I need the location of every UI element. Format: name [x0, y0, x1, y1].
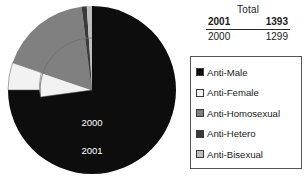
totals-year-2000: 2000 — [208, 31, 242, 43]
legend-label-anti-homosexual: Anti-Homosexual — [207, 108, 280, 119]
pie-svg: 2000 2001 — [6, 4, 178, 176]
totals-row-2000: 2000 1299 — [206, 30, 290, 43]
legend-swatch-icon-anti-bisexual — [196, 150, 204, 158]
totals-value-2001: 1393 — [254, 16, 288, 28]
pie-outer-year-label: 2001 — [81, 145, 102, 156]
legend-swatch-icon-anti-homosexual — [196, 109, 204, 117]
legend-item-anti-female[interactable]: Anti-Female — [196, 83, 297, 104]
legend-swatch-icon-anti-male — [196, 68, 204, 76]
pie-chart: 2000 2001 — [6, 4, 178, 176]
legend-swatch-icon-anti-hetero — [196, 130, 204, 138]
legend-swatch-icon-anti-female — [196, 89, 204, 97]
legend-item-anti-hetero[interactable]: Anti-Hetero — [196, 124, 297, 145]
legend-label-anti-female: Anti-Female — [207, 87, 259, 98]
totals-year-2001: 2001 — [208, 16, 242, 28]
totals-header: Total — [196, 4, 300, 16]
legend-item-anti-homosexual[interactable]: Anti-Homosexual — [196, 103, 297, 124]
totals-value-2000: 1299 — [254, 31, 288, 43]
legend-label-anti-bisexual: Anti-Bisexual — [207, 149, 263, 160]
chart-root: 2000 2001 Total 2001 1393 2000 1299 Anti… — [0, 0, 308, 176]
totals-row-2001: 2001 1393 — [206, 16, 290, 30]
legend-item-anti-bisexual[interactable]: Anti-Bisexual — [196, 144, 297, 165]
legend-box: Anti-Male Anti-Female Anti-Homosexual An… — [190, 56, 302, 169]
totals-table: Total 2001 1393 2000 1299 — [196, 4, 300, 43]
legend-label-anti-male: Anti-Male — [207, 67, 248, 78]
pie-inner-year-label: 2000 — [81, 117, 102, 128]
legend-label-anti-hetero: Anti-Hetero — [207, 128, 256, 139]
legend-item-anti-male[interactable]: Anti-Male — [196, 62, 297, 83]
